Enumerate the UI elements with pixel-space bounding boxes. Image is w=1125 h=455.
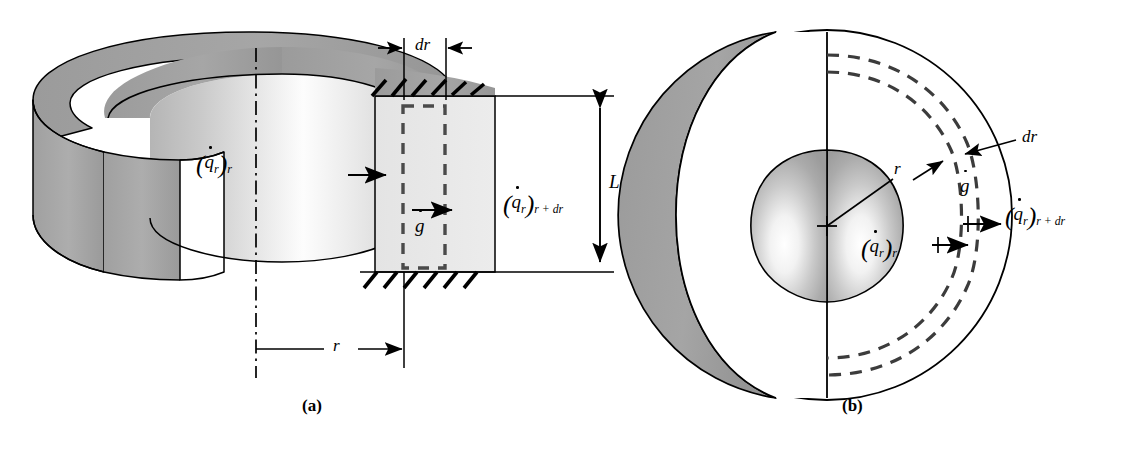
label-a-heat-out: (qr)r + dr — [503, 192, 563, 218]
label-b-heat-in: (qr)r — [861, 236, 897, 262]
hatch-bottom — [364, 272, 477, 288]
panel-b-sphere-drawing — [618, 30, 1016, 400]
label-a-length: L — [609, 172, 620, 191]
caption-a: (a) — [302, 396, 322, 416]
caption-b: (b) — [842, 396, 863, 416]
cylinder-outer-wall-left-lower — [104, 152, 180, 280]
label-a-dr: dr — [415, 36, 430, 53]
label-a-radius: r — [333, 337, 340, 354]
label-b-generation: g — [960, 176, 970, 195]
label-b-dr: dr — [1022, 128, 1037, 145]
figure-container: dr L r (qr)r (qr)r + dr g (a) dr r g (qr… — [0, 0, 1125, 455]
label-b-heat-out: (qr)r + dr — [1005, 204, 1065, 230]
figure-drawing — [0, 0, 1125, 455]
label-a-heat-in: (qr)r — [196, 152, 232, 178]
label-b-radius: r — [894, 160, 901, 177]
cylinder-element-face — [375, 96, 495, 272]
label-a-generation: g — [415, 216, 425, 235]
